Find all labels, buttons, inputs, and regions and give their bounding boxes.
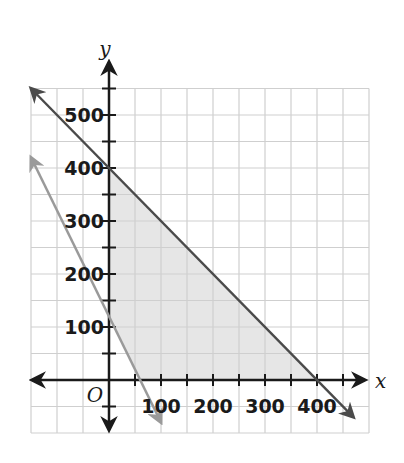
y-tick-label: 500 — [64, 104, 104, 126]
y-tick-label: 100 — [64, 316, 104, 338]
y-tick-label: 400 — [64, 157, 104, 179]
y-tick-label: 200 — [64, 263, 104, 285]
origin-label: O — [87, 383, 103, 407]
x-axis-label: x — [375, 369, 386, 393]
x-tick-label: 400 — [297, 395, 337, 417]
x-tick-label: 200 — [193, 395, 233, 417]
y-axis-label: y — [98, 37, 111, 61]
linear-inequality-graph: 100200300400100200300400500xyO — [0, 0, 404, 463]
x-tick-label: 300 — [245, 395, 285, 417]
y-tick-label: 300 — [64, 210, 104, 232]
x-tick-label: 100 — [141, 395, 181, 417]
